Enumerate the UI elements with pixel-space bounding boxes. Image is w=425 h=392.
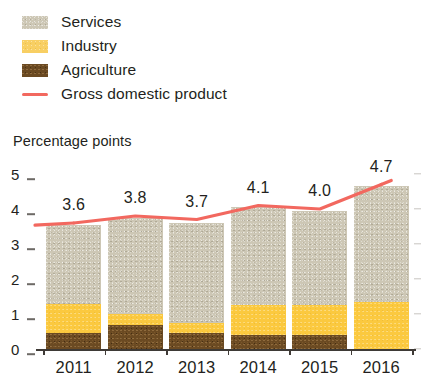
bar-segment-agriculture [169, 333, 224, 349]
bar-2016 [354, 186, 409, 349]
bar-segment-agriculture [108, 325, 163, 350]
y-axis-tick-label: 2 [11, 272, 19, 287]
bar-segment-industry [292, 305, 347, 335]
gdp-value-label-2014: 4.1 [247, 179, 270, 197]
x-axis-tick-mark [228, 349, 230, 355]
right-edge-tick-mark [414, 173, 421, 174]
y-axis-tick-mark [27, 178, 35, 180]
right-edge-tick-mark [414, 313, 421, 314]
y-axis-tick-label: 4 [11, 202, 19, 217]
bar-segment-agriculture [292, 335, 347, 349]
x-axis-label-2015: 2015 [301, 358, 339, 377]
x-axis-label-2011: 2011 [56, 358, 92, 377]
x-axis-label-2016: 2016 [362, 358, 400, 377]
y-axis-tick-mark [27, 353, 35, 355]
y-axis-tick-mark [27, 283, 35, 285]
x-axis-tick-mark [289, 349, 291, 355]
bar-segment-industry [46, 304, 101, 334]
gdp-value-label-2016: 4.7 [370, 158, 393, 176]
x-axis-tick-mark [412, 349, 414, 355]
bar-segment-industry [354, 302, 409, 349]
right-edge-tick-mark [414, 243, 421, 244]
bar-segment-services [46, 225, 101, 304]
x-axis-tick-mark [166, 349, 168, 355]
bar-segment-industry [231, 305, 286, 335]
y-axis-tick-mark [27, 213, 35, 215]
y-axis-tick-label: 0 [11, 342, 19, 357]
bar-segment-services [108, 218, 163, 314]
gdp-value-label-2011: 3.6 [62, 196, 85, 214]
bar-segment-services [354, 186, 409, 302]
x-axis-tick-mark [105, 349, 107, 355]
bar-2015 [292, 211, 347, 349]
right-edge-tick-mark [414, 278, 421, 279]
y-axis-tick-mark [27, 318, 35, 320]
bar-segment-industry [108, 314, 163, 325]
bar-segment-agriculture [231, 335, 286, 349]
x-axis-tick-mark [43, 349, 45, 355]
y-axis-tick-label: 3 [11, 237, 19, 252]
x-axis-label-2013: 2013 [178, 358, 216, 377]
bar-segment-services [169, 223, 224, 323]
y-axis-tick-mark [27, 248, 35, 250]
bar-segment-industry [169, 323, 224, 334]
chart-plot-area: 543210 201120122013201420152016 3.63.83.… [0, 0, 425, 392]
bar-2014 [231, 207, 286, 349]
x-axis-label-2012: 2012 [116, 358, 154, 377]
x-axis-tick-mark [351, 349, 353, 355]
y-axis-tick-label: 1 [11, 307, 19, 322]
x-axis-baseline [36, 349, 416, 351]
gdp-value-label-2013: 3.7 [185, 193, 208, 211]
y-axis-tick-label: 5 [11, 167, 19, 182]
bar-segment-agriculture [46, 333, 101, 349]
bar-2012 [108, 218, 163, 349]
bar-segment-services [231, 207, 286, 305]
gdp-line-end-stub [381, 181, 391, 185]
bar-segment-services [292, 211, 347, 306]
bar-2011 [46, 225, 101, 349]
x-axis-label-2014: 2014 [239, 358, 277, 377]
bar-2013 [169, 223, 224, 349]
gdp-value-label-2012: 3.8 [124, 189, 147, 207]
right-edge-tick-mark [414, 208, 421, 209]
gdp-value-label-2015: 4.0 [308, 182, 331, 200]
